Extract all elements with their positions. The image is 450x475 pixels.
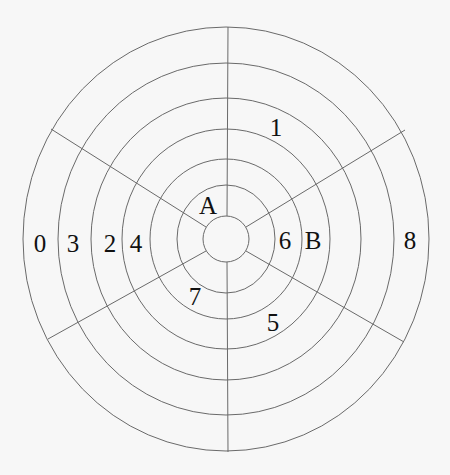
ring-3 — [122, 129, 330, 349]
spoke-upper-left — [51, 129, 206, 227]
ring-6 — [23, 27, 429, 451]
label-1: 1 — [270, 114, 283, 141]
spoke-top — [227, 27, 228, 216]
rings-group — [23, 27, 429, 451]
label-0: 0 — [34, 230, 47, 257]
spoke-lower-left — [48, 251, 206, 339]
ring-1 — [177, 185, 275, 293]
label-8: 8 — [404, 227, 417, 254]
concentric-ring-diagram: 1 A 6 B 8 0 3 2 4 7 5 — [0, 0, 450, 475]
spokes-group — [48, 27, 405, 452]
label-5: 5 — [267, 309, 280, 336]
label-7: 7 — [189, 283, 202, 310]
label-6: 6 — [279, 227, 292, 254]
label-2: 2 — [104, 230, 117, 257]
spoke-upper-right — [246, 130, 405, 227]
label-4: 4 — [130, 230, 143, 257]
label-3: 3 — [67, 230, 80, 257]
labels-group: 1 A 6 B 8 0 3 2 4 7 5 — [34, 114, 417, 336]
ring-0 — [203, 216, 249, 262]
label-B: B — [305, 227, 322, 254]
label-A: A — [199, 192, 217, 219]
spoke-bottom — [227, 262, 228, 452]
